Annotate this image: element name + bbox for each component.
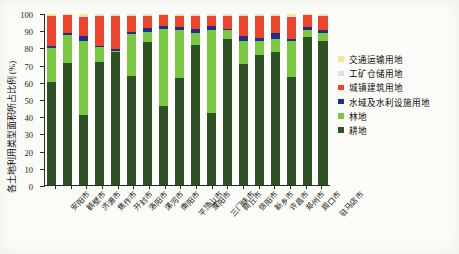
bar-segment: [239, 64, 248, 185]
legend-swatch: [338, 85, 344, 91]
bar-segment: [223, 30, 232, 39]
legend-label: 水域及水利设施用地: [349, 96, 430, 108]
legend-label: 城镇建筑用地: [349, 81, 403, 93]
y-tick: 30: [40, 134, 45, 135]
y-tick: 20: [40, 152, 45, 153]
stacked-bar: [79, 14, 88, 185]
bar-segment: [255, 16, 264, 38]
legend-swatch: [338, 71, 344, 77]
x-tick-label: 驻马店市: [336, 188, 365, 219]
bar-segment: [47, 16, 56, 45]
stacked-bar: [207, 14, 216, 185]
y-tick-label: 10: [25, 165, 34, 175]
y-tick: 10: [40, 169, 45, 170]
y-tick-label: 100: [20, 10, 33, 20]
bar-segment: [63, 15, 72, 33]
bar-segment: [271, 16, 280, 33]
bar-segment: [191, 45, 200, 185]
bar-segment: [318, 33, 327, 42]
bar-segment: [79, 41, 88, 115]
y-tick-label: 50: [25, 96, 34, 106]
stacked-bar: [95, 14, 104, 185]
legend-swatch: [338, 56, 344, 62]
stacked-bar: [63, 14, 72, 185]
bar-segment: [287, 77, 296, 185]
bar-segment: [175, 16, 184, 27]
y-tick-label: 90: [25, 27, 34, 37]
bar-segment: [159, 106, 168, 185]
y-tick: 40: [40, 117, 45, 118]
plot-area: 0102030405060708090100: [44, 14, 330, 186]
bar-segment: [303, 15, 312, 27]
bar-segment: [175, 78, 184, 185]
y-tick: 90: [40, 31, 45, 32]
stacked-bar: [111, 14, 120, 185]
stacked-bar: [143, 14, 152, 185]
y-tick-label: 70: [25, 62, 34, 72]
bar-segment: [127, 76, 136, 185]
stacked-bar: [223, 14, 232, 185]
y-tick-label: 40: [25, 113, 34, 123]
y-tick-label: 0: [29, 182, 33, 192]
bar-segment: [63, 35, 72, 63]
stacked-bar: [127, 14, 136, 185]
bar-segment: [239, 16, 248, 36]
y-tick: 50: [40, 100, 45, 101]
bar-segment: [143, 16, 152, 28]
stacked-bar: [191, 14, 200, 185]
bar-segment: [255, 55, 264, 185]
bar-segment: [318, 41, 327, 185]
bar-segment: [303, 30, 312, 37]
bar-segment: [191, 33, 200, 45]
legend-swatch: [338, 127, 344, 133]
stacked-bar: [159, 14, 168, 185]
stacked-bar: [47, 14, 56, 185]
bar-segment: [318, 16, 327, 30]
legend-label: 工矿仓储用地: [349, 67, 403, 79]
y-tick-label: 60: [25, 79, 34, 89]
bar-segment: [159, 15, 168, 26]
bar-segment: [111, 16, 120, 50]
bar-segment: [271, 39, 280, 52]
stacked-bar: [271, 14, 280, 185]
bar-segment: [143, 32, 152, 41]
stacked-bar: [303, 14, 312, 185]
y-tick-label: 30: [25, 130, 34, 140]
stacked-bar: [255, 14, 264, 185]
legend-item: 林地: [338, 109, 456, 123]
bar-segment: [191, 16, 200, 30]
bar-segment: [223, 39, 232, 185]
bar-segment: [127, 34, 136, 76]
bar-segment: [239, 41, 248, 65]
bar-segment: [95, 47, 104, 62]
y-tick-label: 20: [25, 148, 34, 158]
bar-segment: [159, 29, 168, 106]
legend-swatch: [338, 113, 344, 119]
legend-item: 工矿仓储用地: [338, 66, 456, 80]
stacked-bar: [239, 14, 248, 185]
bar-segment: [287, 17, 296, 39]
legend-swatch: [338, 99, 344, 105]
bar-segment: [143, 42, 152, 185]
y-tick: 100: [40, 14, 45, 15]
bar-segment: [47, 48, 56, 83]
stacked-bar: [318, 14, 327, 185]
y-tick: 70: [40, 66, 45, 67]
bar-segment: [95, 16, 104, 46]
bar-segment: [79, 17, 88, 35]
bar-segment: [271, 52, 280, 185]
chart-legend: 交通运输用地工矿仓储用地城镇建筑用地水域及水利设施用地林地耕地: [338, 52, 456, 137]
bar-group: [45, 14, 330, 185]
bar-segment: [79, 115, 88, 185]
bar-segment: [127, 16, 136, 32]
bar-segment: [303, 37, 312, 185]
y-tick: 60: [40, 83, 45, 84]
stacked-bar: [287, 14, 296, 185]
y-axis-title: 各土地利用类型面积所占比例 (%): [5, 52, 18, 202]
y-tick-label: 80: [25, 44, 34, 54]
legend-label: 林地: [349, 110, 367, 122]
y-tick: 0: [40, 186, 45, 187]
bar-segment: [223, 16, 232, 29]
legend-label: 耕地: [349, 124, 367, 136]
bar-segment: [111, 52, 120, 185]
